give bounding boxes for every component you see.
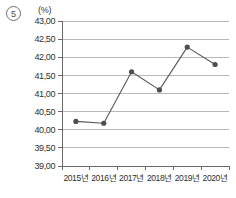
line-chart-plot: 39,0039,5040,0040,5041,0041,5042,0042,50…	[0, 0, 236, 198]
y-axis-tick-label: 41,00	[34, 89, 55, 99]
x-axis-tick-label: 2015년	[63, 173, 88, 183]
x-axis-tick-label: 2016년	[91, 173, 116, 183]
data-point	[212, 62, 217, 67]
y-axis-tick-label: 42,00	[34, 52, 55, 62]
y-axis-tickmarks	[58, 21, 62, 166]
data-point	[101, 121, 106, 126]
y-axis-tick-label: 39,00	[34, 161, 55, 171]
y-axis-tick-label: 43,00	[34, 16, 55, 26]
y-axis-tick-label: 41,50	[34, 71, 55, 81]
gridlines	[62, 21, 229, 166]
y-axis-tick-label: 39,50	[34, 143, 55, 153]
x-axis-tick-labels: 2015년2016년2017년2018년2019년2020년	[63, 173, 227, 183]
data-point	[185, 45, 190, 50]
x-axis-tick-label: 2018년	[147, 173, 172, 183]
y-axis-tick-label: 40,00	[34, 125, 55, 135]
y-axis-tick-label: 42,50	[34, 34, 55, 44]
x-axis-tick-label: 2019년	[175, 173, 200, 183]
data-point	[157, 87, 162, 92]
y-axis-tick-label: 40,50	[34, 107, 55, 117]
x-axis-tickmarks	[62, 166, 229, 170]
series-markers	[73, 45, 217, 126]
x-axis-tick-label: 2017년	[119, 173, 144, 183]
y-axis-tick-labels: 39,0039,5040,0040,5041,0041,5042,0042,50…	[34, 16, 55, 171]
x-axis-tick-label: 2020년	[203, 173, 228, 183]
data-point	[129, 69, 134, 74]
data-point	[73, 119, 78, 124]
chart-figure: 5 (%) 39,0039,5040,0040,5041,0041,5042,0…	[0, 0, 236, 198]
